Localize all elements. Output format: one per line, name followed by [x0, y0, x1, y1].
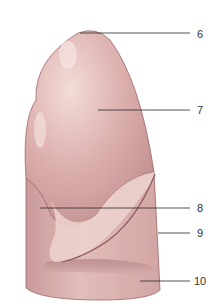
label-8: 8 [197, 202, 203, 214]
label-9: 9 [197, 227, 203, 239]
label-7: 7 [197, 104, 203, 116]
label-10: 10 [194, 275, 206, 287]
organ-illustration [0, 0, 221, 307]
anatomical-figure: 6 7 8 9 10 [0, 0, 221, 307]
label-6: 6 [197, 28, 203, 40]
